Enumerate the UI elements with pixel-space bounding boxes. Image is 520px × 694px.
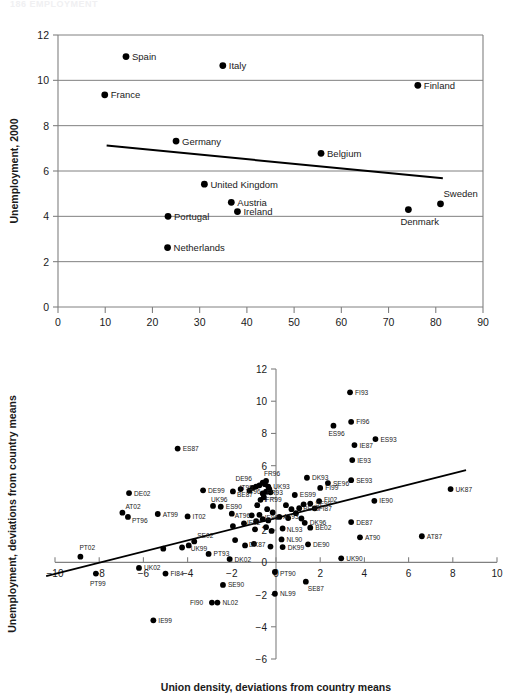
data-point-label: AT90 <box>365 534 381 541</box>
data-point-label: Belgium <box>327 148 361 159</box>
data-point <box>338 555 344 561</box>
data-point-label: NL93 <box>287 526 303 533</box>
y-tick-label: 8 <box>43 120 49 132</box>
data-point-label: AT02 <box>125 503 141 510</box>
data-point <box>280 544 286 550</box>
x-tick-label: 0 <box>55 316 61 328</box>
data-point <box>215 600 221 606</box>
y-axis-title: Unemployment, 2000 <box>8 118 20 223</box>
data-point <box>296 505 302 511</box>
data-point-label: SE90 <box>228 581 244 588</box>
data-point <box>165 213 172 220</box>
data-point-label: DK02 <box>235 556 252 563</box>
data-point-label: DK99 <box>288 544 305 551</box>
top-chart-svg: 0246810120102030405060708090SpainItalyFi… <box>0 10 520 335</box>
data-point <box>317 485 323 491</box>
data-point-label: IE99 <box>158 617 172 624</box>
data-point-label: PT96 <box>132 517 148 524</box>
data-point-label: IE02 <box>247 519 261 526</box>
data-point-label: IE90 <box>379 497 393 504</box>
data-point <box>155 511 161 517</box>
data-point <box>348 519 354 525</box>
x-tick-label: 10 <box>99 316 111 328</box>
data-point <box>272 591 278 597</box>
x-tick-label: −2 <box>226 568 238 579</box>
bottom-chart-svg: −10−8−6−4−20246810−6−4−2246810120FI93FI9… <box>0 345 520 694</box>
data-point <box>352 442 358 448</box>
data-point <box>230 523 236 529</box>
data-point-label: FR93 <box>267 489 283 496</box>
data-point-label: ES99 <box>300 491 316 498</box>
y-tick-label: 12 <box>37 29 49 41</box>
data-point-label: UK02 <box>144 564 161 571</box>
data-point-label: FR96 <box>264 470 280 477</box>
data-point-label: FI99 <box>325 484 339 491</box>
data-point <box>136 565 142 571</box>
data-point-label: PT90 <box>280 570 296 577</box>
data-point <box>269 528 275 534</box>
data-point <box>348 419 354 425</box>
x-tick-label: 50 <box>288 316 300 328</box>
data-point <box>234 208 241 215</box>
data-point-label: DE96 <box>235 475 252 482</box>
data-point-label: FI96 <box>356 418 370 425</box>
data-point-label: Germany <box>182 136 221 147</box>
data-point-label: ES87 <box>183 445 199 452</box>
data-point-label: IE87 <box>359 442 373 449</box>
data-point-label: Italy <box>229 60 247 71</box>
x-tick-label: 80 <box>430 316 442 328</box>
x-axis-title: Union density, deviations from country m… <box>161 681 391 693</box>
data-point <box>173 138 180 145</box>
data-point <box>150 617 156 623</box>
data-point-label: Finland <box>424 80 455 91</box>
data-point <box>200 487 206 493</box>
data-point-label: Netherlands <box>174 242 225 253</box>
data-point <box>405 206 412 213</box>
x-tick-label: 60 <box>335 316 347 328</box>
data-point-label: FR99 <box>266 496 282 503</box>
data-point <box>210 503 216 509</box>
x-tick-label: 6 <box>406 568 412 579</box>
data-point <box>304 475 310 481</box>
x-tick-label: 70 <box>383 316 395 328</box>
y-tick-label: 0 <box>43 301 49 313</box>
data-point <box>175 446 181 452</box>
data-point <box>419 533 425 539</box>
y-tick-label: 10 <box>256 396 268 407</box>
data-point-label: DE90 <box>313 541 330 548</box>
data-point <box>252 526 258 532</box>
data-point <box>264 506 270 512</box>
data-point-label: BE87 <box>237 491 253 498</box>
data-point-label: France <box>111 89 141 100</box>
x-tick-label: 20 <box>147 316 159 328</box>
data-point <box>302 520 308 526</box>
data-point-label: AT87 <box>427 533 443 540</box>
data-point <box>305 541 311 547</box>
data-point <box>414 82 421 89</box>
data-point-label: IT02 <box>193 513 207 520</box>
data-point-label: UK90 <box>346 555 363 562</box>
data-point <box>437 200 444 207</box>
data-point-label: ES90 <box>226 503 242 510</box>
data-point <box>254 502 260 508</box>
data-point-label: FI87 <box>319 505 333 512</box>
data-point-label: Sweden <box>444 188 478 199</box>
data-point-label: PT02 <box>79 544 95 551</box>
data-point-label: Spain <box>132 51 156 62</box>
data-point <box>185 514 191 520</box>
data-point <box>292 492 298 498</box>
y-axis-title: Unemployment, deviations from country me… <box>6 395 18 633</box>
figure-bottom-scatter: −10−8−6−4−20246810−6−4−2246810120FI93FI9… <box>0 345 520 694</box>
data-point <box>258 497 264 503</box>
data-point-label: ES96 <box>328 430 344 437</box>
y-tick-label: 8 <box>261 428 267 439</box>
data-point <box>289 506 295 512</box>
data-point-label: UK96 <box>211 496 228 503</box>
data-point <box>318 150 325 157</box>
data-point <box>218 504 224 510</box>
data-point-label: ES93 <box>380 436 396 443</box>
data-point <box>263 524 269 530</box>
x-tick-label: 40 <box>241 316 253 328</box>
data-point-label: AT99 <box>163 511 179 518</box>
x-tick-label: 90 <box>477 316 489 328</box>
